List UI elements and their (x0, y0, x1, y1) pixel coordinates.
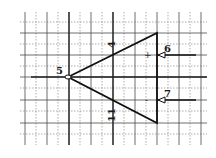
wires (31, 12, 207, 145)
pin-5-marker-icon (65, 75, 71, 79)
plus-sign: + (144, 50, 152, 60)
pin-5-label: 5 (56, 65, 63, 76)
pin-7-label: 7 (164, 88, 171, 99)
pin-6-label: 6 (164, 43, 171, 54)
op-amp-diagram: 5 4 6 7 11 + - (0, 0, 216, 158)
minus-sign: - (145, 95, 148, 105)
pin-4-label: 4 (106, 41, 117, 48)
pin-11-label: 11 (106, 108, 117, 122)
